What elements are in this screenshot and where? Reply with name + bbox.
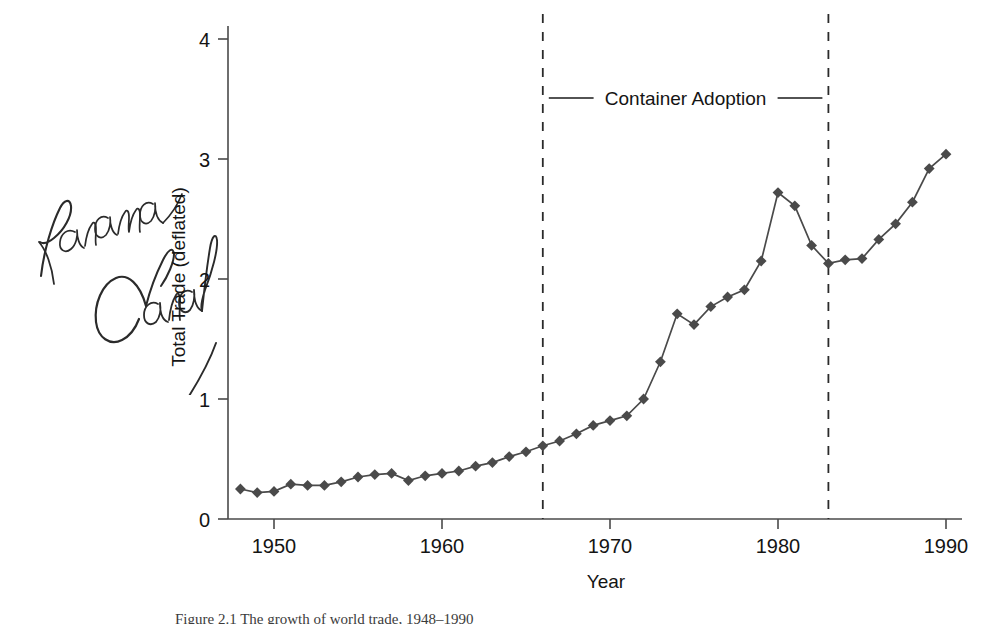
- data-point-1956: [369, 469, 380, 480]
- y-tick-label-1: 1: [199, 389, 210, 411]
- y-axis-tick-labels: 4 3 2 1 0: [199, 29, 210, 531]
- y-tick-label-3: 3: [199, 149, 210, 171]
- x-tick-label-1990: 1990: [924, 535, 969, 557]
- data-point-1955: [353, 472, 364, 483]
- data-point-1957: [386, 468, 397, 479]
- y-tick-label-2: 2: [199, 269, 210, 291]
- x-tick-label-1980: 1980: [756, 535, 801, 557]
- data-point-1952: [302, 480, 313, 491]
- x-axis-tick-labels: 1950 1960 1970 1980 1990: [252, 535, 969, 557]
- data-point-1978: [739, 284, 750, 295]
- figure-caption: Figure 2.1 The growth of world trade, 19…: [175, 611, 815, 624]
- data-point-1974: [672, 308, 683, 319]
- data-point-1969: [588, 420, 599, 431]
- data-point-1968: [571, 428, 582, 439]
- y-tick-label-0: 0: [199, 509, 210, 531]
- trade-line-chart: 4 3 2 1 0 1950 1960 1970 1980 1990 Year …: [0, 0, 995, 624]
- data-point-1953: [319, 480, 330, 491]
- container-adoption-annotation: Container Adoption: [549, 88, 823, 109]
- x-tick-label-1960: 1960: [420, 535, 465, 557]
- data-point-1984: [840, 254, 851, 265]
- data-point-1954: [336, 476, 347, 487]
- data-point-1966: [537, 440, 548, 451]
- data-point-1963: [487, 457, 498, 468]
- trade-series-markers: [235, 149, 951, 498]
- data-point-1958: [403, 475, 414, 486]
- data-point-1977: [722, 292, 733, 303]
- figure-root: 4 3 2 1 0 1950 1960 1970 1980 1990 Year …: [0, 0, 995, 624]
- data-point-1979: [756, 256, 767, 267]
- trade-series-line: [240, 154, 946, 492]
- x-axis-title: Year: [587, 571, 626, 592]
- y-tick-label-4: 4: [199, 29, 210, 51]
- y-axis-title: Total Trade (deflated): [168, 187, 189, 367]
- data-point-1949: [252, 487, 263, 498]
- data-point-1973: [655, 356, 666, 367]
- data-point-1951: [285, 479, 296, 490]
- data-point-1950: [269, 486, 280, 497]
- data-point-1948: [235, 484, 246, 495]
- x-axis-ticks: [274, 519, 946, 529]
- data-point-1962: [470, 461, 481, 472]
- annotation-label: Container Adoption: [605, 88, 767, 109]
- data-point-1965: [521, 446, 532, 457]
- x-tick-label-1950: 1950: [252, 535, 297, 557]
- data-point-1960: [437, 468, 448, 479]
- y-axis-ticks: [218, 39, 228, 519]
- data-point-1967: [554, 436, 565, 447]
- data-point-1959: [420, 470, 431, 481]
- data-point-1964: [504, 451, 515, 462]
- data-point-1961: [453, 466, 464, 477]
- x-tick-label-1970: 1970: [588, 535, 633, 557]
- data-point-1970: [605, 415, 616, 426]
